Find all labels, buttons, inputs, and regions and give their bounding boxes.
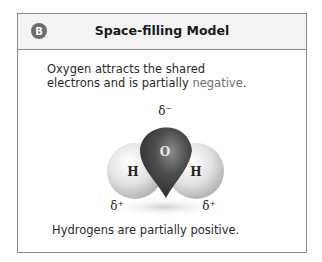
oxygen-label: O (160, 145, 170, 159)
hydrogen-left-partial-charge: δ⁺ (110, 199, 124, 213)
hydrogen-caption: Hydrogens are partially positive. (52, 223, 239, 237)
hydrogen-right-label: H (190, 165, 201, 179)
oxygen-partial-charge: δ⁻ (158, 104, 172, 118)
hydrogen-right-partial-charge: δ⁺ (202, 199, 216, 213)
hydrogen-left-label: H (127, 165, 138, 179)
